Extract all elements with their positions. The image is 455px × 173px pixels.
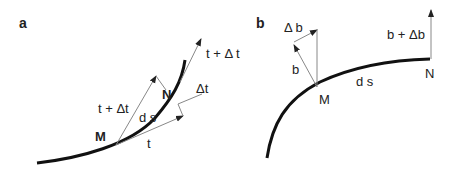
point-N-label-b: N (425, 66, 434, 81)
dt-label: Δt (196, 81, 209, 96)
b-label: b (292, 62, 299, 77)
point-N-label-a: N (162, 87, 171, 102)
vector-t-plus-dt-at-N (180, 39, 201, 82)
ds-label-a: d s (139, 110, 157, 125)
ds-label-b: d s (356, 74, 374, 89)
t-plus-dt-label-N: t + Δ t (206, 46, 240, 61)
panel-b-label: b (256, 15, 265, 31)
b-plus-db-label: b + Δb (387, 27, 425, 42)
db-label: Δ b (284, 20, 303, 35)
point-M-label-b: M (319, 92, 330, 107)
t-label: t (147, 136, 151, 151)
panel-a: a M N d s t t + Δt Δt t + Δ t (19, 15, 240, 163)
panel-a-label: a (19, 15, 27, 31)
diagram-canvas: a M N d s t t + Δt Δt t + Δ t b M N d s (0, 0, 455, 173)
panel-b: b M N d s b Δ b b + Δb (256, 10, 434, 158)
t-plus-dt-label-M: t + Δt (98, 101, 129, 116)
point-M-label-a: M (95, 129, 106, 144)
